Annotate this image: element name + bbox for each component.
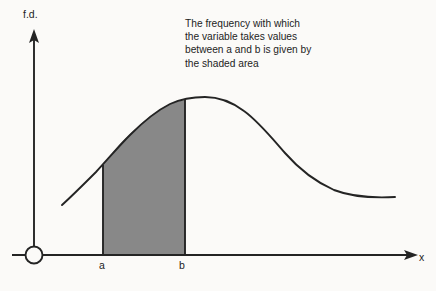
x-axis-label: x xyxy=(419,251,424,263)
annotation-line-3: between a and b is given by xyxy=(185,43,311,56)
origin-circle-marker xyxy=(26,247,43,264)
tick-label-a: a xyxy=(99,259,105,271)
annotation-line-1: The frequency with which xyxy=(185,17,311,30)
annotation-line-4: the shaded area xyxy=(185,57,311,70)
annotation-line-2: the variable takes values xyxy=(185,30,311,43)
shaded-area-region xyxy=(103,100,185,255)
tick-label-b: b xyxy=(179,259,185,271)
frequency-density-figure: The frequency with which the variable ta… xyxy=(0,0,436,291)
y-axis-label: f.d. xyxy=(23,8,38,20)
annotation-text: The frequency with which the variable ta… xyxy=(185,17,311,70)
